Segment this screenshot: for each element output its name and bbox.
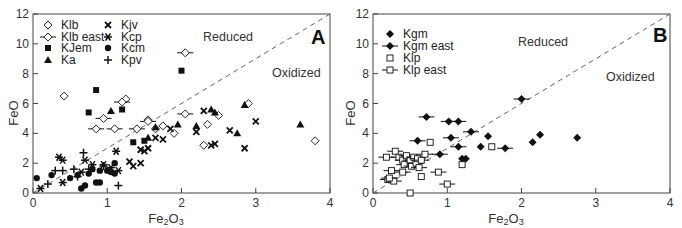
square-open-marker [489, 144, 495, 150]
y-tick-label: 4 [362, 126, 369, 140]
x-tick-label: 0 [370, 196, 377, 210]
diamond-open-bar-marker [107, 125, 123, 133]
diamond-open-bar-marker [88, 125, 104, 133]
x-axis-title: Fe2O3 [148, 211, 183, 227]
diamond-filled-marker [536, 131, 544, 139]
square-filled-marker [119, 106, 125, 112]
circle-filled-marker [111, 170, 117, 176]
diamond-open-bar-marker [177, 49, 193, 57]
x-bold-marker [160, 136, 166, 142]
triangle-filled-marker [152, 123, 160, 130]
x-tick-label: 3 [592, 196, 599, 210]
x-bold-marker [167, 126, 173, 132]
square-filled-marker [130, 139, 136, 145]
y-tick-label: 0 [362, 186, 369, 200]
asterisk-marker [36, 185, 44, 192]
series-kgm-east [410, 95, 530, 158]
diamond-filled-bar-marker [463, 128, 479, 136]
circle-filled-marker [48, 172, 54, 178]
square-filled-marker [93, 87, 99, 93]
diamond-filled-marker [484, 132, 492, 140]
square-filled-marker [86, 109, 92, 115]
x-tick-label: 4 [667, 196, 674, 210]
square-open-bar-marker [378, 154, 394, 160]
x-bold-marker [227, 127, 233, 133]
diamond-open-bar-marker [129, 125, 145, 133]
y-tick-label: 8 [362, 67, 369, 81]
x-axis-ticks: 01234 [370, 188, 674, 210]
asterisk-marker [104, 34, 112, 41]
diamond-filled-bar-marker [410, 137, 426, 145]
y-tick-label: 12 [356, 7, 370, 21]
x-bold-marker [201, 108, 207, 114]
y-tick-label: 10 [356, 37, 370, 51]
triangle-filled-marker [296, 120, 304, 127]
diamond-open-marker [203, 120, 211, 128]
circle-filled-marker [82, 182, 88, 188]
reduced-label: Reduced [518, 35, 568, 49]
diamond-open-marker [311, 137, 319, 145]
diamond-open-bar-marker [177, 110, 193, 118]
diamond-filled-bar-marker [443, 134, 459, 142]
x-tick-label: 0 [30, 196, 37, 210]
plus-marker [79, 149, 87, 157]
x-axis-title: Fe2O3 [488, 211, 523, 227]
x-bold-marker [242, 145, 248, 151]
triangle-filled-marker [174, 120, 182, 127]
diamond-open-marker [44, 21, 52, 29]
diamond-filled-bar-marker [450, 117, 466, 125]
square-open-marker [459, 162, 465, 168]
plus-marker [114, 182, 122, 190]
panel-b-chart: 024681012 01234 Reduced Oxidized B FeO F… [343, 7, 674, 227]
y-tick-label: 10 [16, 37, 30, 51]
diamond-filled-marker [477, 143, 485, 151]
x-tick-label: 1 [104, 196, 111, 210]
triangle-filled-marker [107, 107, 115, 114]
panel-a-chart: 024681012 01234 Reduced Oxidized A FeO F… [6, 7, 334, 227]
y-axis-title: FeO [343, 100, 358, 125]
square-filled-marker [45, 45, 51, 51]
circle-filled-marker [97, 179, 103, 185]
plus-marker [70, 165, 78, 173]
oxidized-label: Oxidized [272, 66, 321, 80]
y-axis-title: FeO [6, 100, 21, 125]
series-kgm [458, 131, 581, 163]
plus-marker [44, 180, 52, 188]
panel-letter: A [311, 26, 325, 48]
legend-label: Ka [61, 53, 76, 67]
x-tick-label: 4 [327, 196, 334, 210]
diamond-open-marker [159, 122, 167, 130]
legend-item: Kpv [104, 53, 142, 67]
y-tick-label: 0 [22, 186, 29, 200]
plus-marker [104, 56, 112, 64]
diamond-open-marker [60, 92, 68, 100]
asterisk-marker [112, 148, 120, 155]
diamond-filled-marker [386, 30, 394, 38]
y-tick-label: 2 [22, 156, 29, 170]
circle-filled-marker [111, 160, 117, 166]
asterisk-marker [59, 179, 67, 186]
series-ka [107, 101, 304, 141]
triangle-filled-marker [192, 122, 200, 129]
y-tick-label: 6 [362, 97, 369, 111]
diamond-filled-bar-marker [382, 42, 398, 50]
square-filled-marker [179, 68, 185, 74]
series-kjem [86, 68, 185, 146]
diamond-open-marker [200, 141, 208, 149]
x-bold-marker [193, 129, 199, 135]
legend-item: Klp east [382, 63, 447, 77]
legend-label: Klp east [403, 63, 447, 77]
reduced-label: Reduced [203, 30, 253, 44]
circle-filled-marker [67, 175, 73, 181]
square-open-bar-marker [395, 169, 411, 175]
square-open-marker [387, 55, 393, 61]
triangle-filled-marker [233, 129, 241, 136]
x-bold-marker [145, 145, 151, 151]
y-tick-label: 4 [22, 126, 29, 140]
legend-item: Ka [44, 53, 76, 67]
diamond-filled-bar-marker [450, 143, 466, 151]
series-klb [60, 92, 319, 149]
x-tick-label: 1 [444, 196, 451, 210]
x-tick-label: 2 [518, 196, 525, 210]
y-tick-label: 6 [22, 97, 29, 111]
